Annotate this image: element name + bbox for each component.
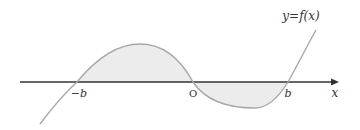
tick-label-pos-b: b — [284, 87, 291, 100]
tick-label-neg-b: −b — [71, 87, 87, 100]
shaded-area-below — [193, 82, 288, 108]
tick-label-origin: O — [189, 88, 197, 99]
function-graph-diagram: y=f(x) −b O b x — [0, 0, 360, 130]
curve-label: y=f(x) — [281, 9, 320, 23]
x-axis-arrowhead-icon — [331, 79, 339, 86]
axis-label-x: x — [332, 86, 339, 100]
